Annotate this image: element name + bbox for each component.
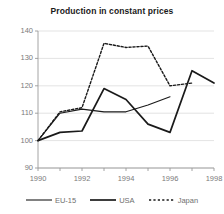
legend-item-usa[interactable]: USA (90, 196, 134, 205)
x-axis-label-1990: 1990 (23, 174, 53, 183)
legend-label: USA (119, 196, 134, 205)
y-axis-label-110: 110 (11, 108, 33, 117)
legend-swatch-solid (90, 197, 116, 203)
legend-swatch-dashed (149, 197, 175, 203)
legend-item-japan[interactable]: Japan (149, 196, 198, 205)
y-axis-label-90: 90 (11, 163, 33, 172)
chart-legend: EU-15USAJapan (0, 193, 224, 207)
chart-container: Production in constant prices 9010011012… (0, 0, 224, 214)
legend-item-eu-15[interactable]: EU-15 (26, 196, 76, 205)
y-axis-label-100: 100 (11, 136, 33, 145)
x-axis-label-1992: 1992 (67, 174, 97, 183)
axis-tick-marks (35, 31, 214, 171)
series-line-usa (38, 71, 214, 141)
data-series-layer (38, 43, 214, 140)
x-axis-label-1996: 1996 (155, 174, 185, 183)
legend-label: Japan (178, 196, 198, 205)
y-axis-label-140: 140 (11, 26, 33, 35)
legend-swatch-solid (26, 197, 52, 203)
y-axis-label-120: 120 (11, 81, 33, 90)
y-axis-label-130: 130 (11, 53, 33, 62)
legend-label: EU-15 (55, 196, 76, 205)
series-line-japan (38, 43, 192, 140)
x-axis-label-1994: 1994 (111, 174, 141, 183)
x-axis-label-1998: 1998 (199, 174, 224, 183)
